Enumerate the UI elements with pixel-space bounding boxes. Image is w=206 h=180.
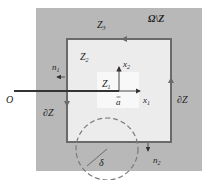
origin-label: O xyxy=(6,94,13,105)
delta-label: δ xyxy=(99,157,104,168)
outer-region-label: Ω\Z xyxy=(148,13,164,24)
boundary-right-label: ∂Z xyxy=(177,94,188,105)
boundary-left-label: ∂Z xyxy=(43,107,54,118)
domain-diagram: Ω\Z Z3 Z2 Z1 x2 x1 a O n1 n2 ∂Z ∂Z δ xyxy=(0,0,206,180)
a-label: a xyxy=(116,97,121,107)
